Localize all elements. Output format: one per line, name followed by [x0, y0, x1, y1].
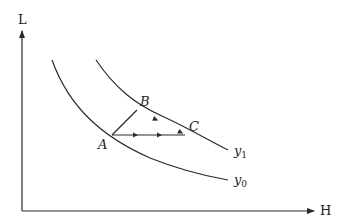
- arrow-b-c-1: [152, 116, 159, 123]
- arrow-a-c-2: [157, 133, 162, 138]
- point-b-label: B: [139, 94, 150, 109]
- isoquant-y0: [52, 60, 228, 180]
- point-a-label: A: [97, 137, 107, 152]
- segment-a-b: [112, 110, 137, 135]
- x-axis-label: H: [320, 203, 331, 218]
- isoquant-diagram: L H y1 y0 A B C: [0, 0, 346, 224]
- y-axis-label: L: [18, 12, 27, 27]
- arrow-a-c-1: [133, 133, 138, 138]
- point-c-label: C: [189, 119, 199, 134]
- label-y1: y1: [233, 143, 247, 160]
- label-y0: y0: [233, 172, 247, 189]
- isoquant-y1: [96, 60, 228, 150]
